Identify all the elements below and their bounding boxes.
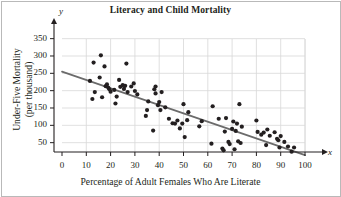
data-point xyxy=(262,131,266,135)
data-point xyxy=(180,121,184,125)
data-point xyxy=(264,143,268,147)
data-point xyxy=(146,99,150,103)
data-point xyxy=(181,102,185,106)
y-tick-label: 300 xyxy=(14,50,47,60)
data-point xyxy=(211,104,215,108)
data-point xyxy=(178,126,182,130)
data-point xyxy=(124,62,128,66)
data-point xyxy=(279,134,283,138)
data-point xyxy=(290,150,294,154)
x-axis-title: Percentage of Adult Females Who Are Lite… xyxy=(0,176,341,187)
data-point xyxy=(153,84,157,88)
y-tick-label: 250 xyxy=(14,67,47,77)
data-point xyxy=(135,92,139,96)
data-point xyxy=(132,81,136,85)
x-tick-label: 100 xyxy=(290,160,320,170)
data-point xyxy=(113,101,117,105)
y-tick-label: 50 xyxy=(14,137,47,147)
data-point xyxy=(153,91,157,95)
data-point xyxy=(217,117,221,121)
data-point xyxy=(256,130,260,134)
data-point xyxy=(157,100,161,104)
data-point xyxy=(239,141,243,145)
data-point xyxy=(99,53,103,57)
data-point xyxy=(282,140,286,144)
data-point xyxy=(240,125,244,129)
data-point xyxy=(224,116,228,120)
x-axis-variable-label: x xyxy=(328,147,332,157)
data-point xyxy=(91,60,95,64)
data-point xyxy=(100,95,104,99)
data-point xyxy=(90,97,94,101)
data-point xyxy=(133,89,137,93)
data-point xyxy=(276,138,280,142)
data-point xyxy=(286,144,290,148)
data-point xyxy=(277,145,281,149)
y-axis-arrow xyxy=(51,18,57,24)
data-point xyxy=(230,127,234,131)
y-tick-label: 350 xyxy=(14,33,47,43)
data-point xyxy=(102,64,106,68)
data-point xyxy=(273,130,277,134)
data-point xyxy=(221,148,225,152)
data-point xyxy=(123,84,127,88)
y-tick-label: 200 xyxy=(14,85,47,95)
data-point xyxy=(93,90,97,94)
data-point xyxy=(186,110,190,114)
data-point xyxy=(183,135,187,139)
data-point xyxy=(254,118,258,122)
data-point xyxy=(144,114,148,118)
data-point xyxy=(112,88,116,92)
data-point xyxy=(158,108,162,112)
data-point xyxy=(88,79,92,83)
data-point xyxy=(209,142,213,146)
data-point xyxy=(126,90,130,94)
data-point xyxy=(268,134,272,138)
data-point xyxy=(228,142,232,146)
data-point xyxy=(235,121,239,125)
data-point xyxy=(292,145,296,149)
data-point xyxy=(117,78,121,82)
y-tick-label: 150 xyxy=(14,102,47,112)
data-point xyxy=(197,124,201,128)
data-point xyxy=(160,90,164,94)
data-point xyxy=(223,129,227,133)
data-point xyxy=(145,108,149,112)
data-point xyxy=(185,118,189,122)
y-axis-variable-label: y xyxy=(59,6,63,16)
chart-figure: Literacy and Child Mortality Under-Five … xyxy=(0,0,341,197)
data-point xyxy=(231,119,235,123)
data-point xyxy=(98,75,102,79)
data-point xyxy=(115,94,119,98)
data-point xyxy=(167,117,171,121)
data-point xyxy=(175,118,179,122)
data-point xyxy=(200,119,204,123)
data-point xyxy=(234,129,238,133)
data-point xyxy=(109,90,113,94)
data-point xyxy=(163,105,167,109)
data-point xyxy=(151,128,155,132)
data-point xyxy=(265,127,269,131)
data-point xyxy=(237,102,241,106)
y-tick-label: 100 xyxy=(14,119,47,129)
data-point xyxy=(232,147,236,151)
